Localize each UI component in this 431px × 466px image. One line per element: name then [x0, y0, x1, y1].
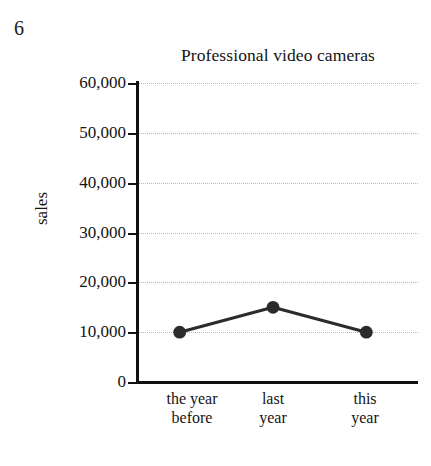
data-point-this-year [360, 326, 373, 339]
data-point-the-year-before [173, 326, 186, 339]
x-tick-label-line2: year [305, 409, 425, 428]
data-point-last-year [267, 301, 280, 314]
line-chart: Professional video cameras sales 60,000 … [0, 0, 431, 466]
x-tick-label-line1: this [305, 390, 425, 409]
x-tick-label-this-year: this year [305, 390, 425, 428]
